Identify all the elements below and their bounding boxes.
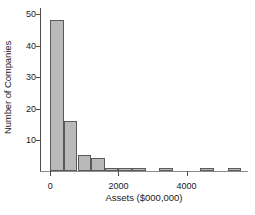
y-tick-label: 30: [14, 73, 36, 82]
y-tick-label: 40: [14, 42, 36, 51]
x-tick-label: 0: [48, 181, 53, 191]
histogram-bar: [132, 168, 146, 171]
x-axis-tick-labels: 020004000: [40, 174, 248, 190]
y-axis-line: [40, 8, 41, 172]
histogram-bar: [118, 168, 132, 171]
x-tick-label: 2000: [108, 181, 128, 191]
y-tick-mark: [36, 77, 41, 78]
x-axis-title: Assets ($000,000): [40, 192, 248, 203]
histogram-bar: [64, 121, 78, 171]
histogram-bar: [200, 168, 214, 171]
plot-area: [40, 8, 248, 172]
y-tick-label: 20: [14, 105, 36, 114]
y-tick-mark: [36, 140, 41, 141]
x-axis-line: [40, 171, 248, 172]
histogram-chart: Number of Companies 1020304050 020004000…: [0, 0, 255, 215]
y-tick-label: 10: [14, 136, 36, 145]
y-axis-tick-labels: 1020304050: [12, 0, 36, 175]
histogram-bar: [228, 168, 242, 171]
histogram-bar: [91, 158, 105, 171]
y-tick-mark: [36, 46, 41, 47]
histogram-bar: [159, 168, 173, 171]
histogram-bar: [105, 168, 119, 171]
x-tick-label: 4000: [177, 181, 197, 191]
y-tick-mark: [36, 14, 41, 15]
histogram-bar: [78, 155, 92, 171]
y-tick-mark: [36, 109, 41, 110]
histogram-bar: [50, 20, 64, 171]
y-tick-label: 50: [14, 10, 36, 19]
